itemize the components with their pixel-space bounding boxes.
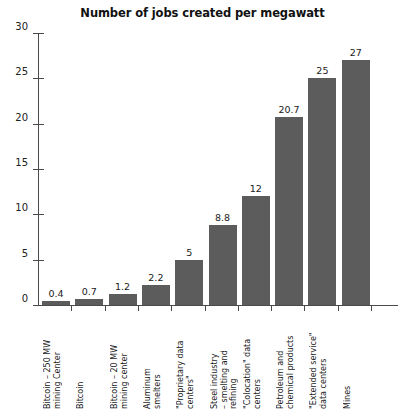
x-axis-tick — [71, 305, 72, 311]
chart-title: Number of jobs created per megawatt — [0, 6, 405, 20]
bar — [308, 78, 336, 305]
x-axis-category-label: "Colocation" data centers — [243, 311, 269, 409]
bar-value-label: 2.2 — [136, 272, 176, 283]
y-axis-tick — [33, 260, 44, 261]
x-axis-tick — [138, 305, 139, 311]
y-axis-tick-label: 0 — [0, 293, 28, 304]
bar — [142, 285, 170, 305]
x-axis-category-label: Petroleum and chemical products — [276, 311, 302, 409]
bar — [109, 294, 137, 305]
x-axis-tick — [371, 305, 372, 311]
y-axis-tick-label: 15 — [0, 157, 28, 168]
bar — [42, 301, 70, 305]
bar — [242, 196, 270, 305]
x-axis-tick — [105, 305, 106, 311]
y-axis-tick — [33, 78, 44, 79]
x-axis-tick — [338, 305, 339, 311]
y-axis-tick-label: 20 — [0, 112, 28, 123]
x-axis-category-label: Steel industry – smelting and refining — [210, 311, 236, 409]
x-axis-category-label: "Proprietary data centers" — [176, 311, 202, 409]
y-axis-tick — [33, 305, 44, 306]
y-axis-tick-label: 30 — [0, 21, 28, 32]
x-axis-category-label: Bitcoin – 20 MW mining center — [110, 311, 136, 409]
bar-value-label: 25 — [302, 65, 342, 76]
bar-value-label: 12 — [236, 183, 276, 194]
x-axis-line — [38, 305, 398, 306]
x-axis-category-label: Aluminum smelters — [143, 311, 169, 409]
y-axis-tick-label: 25 — [0, 66, 28, 77]
x-axis-tick — [171, 305, 172, 311]
x-axis-category-label: Bitcoin — [76, 311, 102, 409]
x-axis-category-label: "Extended service" data centers — [309, 311, 335, 409]
y-axis-tick — [33, 33, 44, 34]
bar — [209, 225, 237, 305]
y-axis-tick — [33, 214, 44, 215]
bar — [342, 60, 370, 305]
x-axis-category-label: Bitcoin – 250 MW mining Center — [43, 311, 69, 409]
x-axis-tick — [205, 305, 206, 311]
bar-value-label: 8.8 — [203, 212, 243, 223]
bar — [275, 117, 303, 305]
bar-value-label: 20.7 — [269, 104, 309, 115]
y-axis-tick — [33, 124, 44, 125]
bar — [175, 260, 203, 305]
x-axis-tick — [238, 305, 239, 311]
bar — [75, 299, 103, 305]
bar-chart: Number of jobs created per megawatt 0510… — [0, 0, 405, 413]
bar-value-label: 5 — [169, 247, 209, 258]
x-axis-tick — [304, 305, 305, 311]
y-axis-tick — [33, 169, 44, 170]
y-axis-tick-label: 10 — [0, 202, 28, 213]
bar-value-label: 27 — [336, 47, 376, 58]
y-axis-tick-label: 5 — [0, 248, 28, 259]
x-axis-category-label: Mines — [343, 311, 369, 409]
x-axis-tick — [271, 305, 272, 311]
